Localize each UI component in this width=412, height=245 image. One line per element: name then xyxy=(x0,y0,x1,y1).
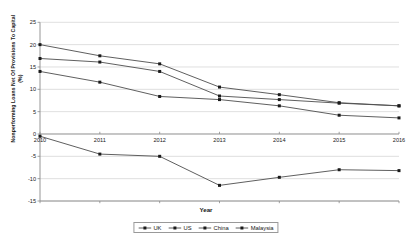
series-line-malaysia xyxy=(40,136,399,185)
data-point-us xyxy=(218,95,221,98)
y-tick-label: 25 xyxy=(14,19,36,25)
chart-legend: UKUSChinaMalaysia xyxy=(133,222,278,233)
chart-figure: Nonperforming Loans Net Of Provisions To… xyxy=(0,0,412,245)
data-point-china xyxy=(39,70,42,73)
y-tick-label: -15 xyxy=(14,198,36,204)
y-tick-label: -10 xyxy=(14,176,36,182)
y-tick-label: -5 xyxy=(14,153,36,159)
x-tick-label: 2016 xyxy=(379,137,412,143)
data-point-china xyxy=(218,98,221,101)
legend-marker-icon xyxy=(199,225,212,231)
data-point-malaysia xyxy=(278,176,281,179)
legend-entry-china[interactable]: China xyxy=(199,225,229,231)
y-tick-label: 10 xyxy=(14,86,36,92)
x-axis-title: Year xyxy=(0,206,412,213)
data-point-uk xyxy=(98,54,101,57)
data-point-china xyxy=(158,95,161,98)
data-point-malaysia xyxy=(218,184,221,187)
data-point-us xyxy=(278,98,281,101)
legend-marker-icon xyxy=(236,225,249,231)
y-tick-label: 5 xyxy=(14,109,36,115)
data-point-uk xyxy=(158,62,161,65)
legend-label: China xyxy=(214,225,229,231)
x-tick-label: 2015 xyxy=(319,137,359,143)
data-point-us xyxy=(158,70,161,73)
y-tick-label: 20 xyxy=(14,42,36,48)
legend-label: US xyxy=(183,225,191,231)
data-point-uk xyxy=(218,86,221,89)
legend-marker-icon xyxy=(168,225,181,231)
legend-label: Malaysia xyxy=(251,225,274,231)
legend-entry-us[interactable]: US xyxy=(168,225,191,231)
legend-marker-icon xyxy=(138,225,151,231)
x-tick-label: 2011 xyxy=(80,137,120,143)
legend-entry-uk[interactable]: UK xyxy=(138,225,161,231)
x-tick-label: 2012 xyxy=(140,137,180,143)
y-axis-title-text: Nonperforming Loans Net Of Provisions To… xyxy=(10,15,16,143)
legend-entry-malaysia[interactable]: Malaysia xyxy=(236,225,274,231)
data-point-china xyxy=(278,104,281,107)
data-point-us xyxy=(98,61,101,64)
y-tick-label: 15 xyxy=(14,64,36,70)
data-point-malaysia xyxy=(398,169,401,172)
x-tick-label: 2014 xyxy=(259,137,299,143)
data-point-malaysia xyxy=(338,168,341,171)
data-point-uk xyxy=(278,93,281,96)
x-tick-label: 2013 xyxy=(200,137,240,143)
data-point-china xyxy=(398,116,401,119)
data-point-china xyxy=(338,114,341,117)
data-point-us xyxy=(338,102,341,105)
data-point-us xyxy=(398,104,401,107)
y-axis-unit-text: (%) xyxy=(17,74,23,82)
data-point-china xyxy=(98,81,101,84)
data-point-uk xyxy=(39,43,42,46)
x-tick-label: 2010 xyxy=(20,137,60,143)
data-point-malaysia xyxy=(158,155,161,158)
data-point-us xyxy=(39,57,42,60)
data-point-malaysia xyxy=(98,153,101,156)
legend-label: UK xyxy=(153,225,161,231)
